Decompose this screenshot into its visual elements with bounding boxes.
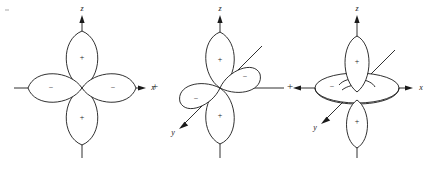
diagram-d-x2-y2: + − + − z x — [0, 0, 160, 172]
axis-label-z: z — [217, 4, 222, 13]
axis-x-negative-arrowhead — [293, 85, 301, 90]
sign-lobe-bottom: + — [355, 117, 360, 126]
diagram-d-yz: + − − + z y — [150, 0, 290, 172]
axis-label-y: y — [170, 128, 175, 137]
axis-label-x: x — [418, 83, 423, 92]
sign-lobe-right: − — [111, 83, 116, 92]
axis-label-y: y — [312, 123, 317, 132]
sign-lobe-top: + — [355, 57, 360, 66]
axis-label-z: z — [79, 4, 84, 13]
diagram-d-z2: + + − z x y — [285, 0, 429, 172]
sign-lobe-lower-left: − — [194, 94, 199, 103]
axis-z-arrowhead — [79, 15, 84, 23]
axis-y-arrowhead — [179, 122, 188, 129]
sign-lobe-top: + — [80, 53, 85, 62]
axis-x-arrowhead — [138, 85, 146, 90]
sign-lobe-left: − — [49, 83, 54, 92]
axis-label-z: z — [354, 4, 359, 13]
axis-y-arrowhead — [321, 117, 330, 124]
axis-z-arrowhead — [217, 15, 222, 23]
orbital-figure: + − + − z x + — [0, 0, 429, 172]
sign-lobe-bottom: + — [80, 113, 85, 122]
lobes-group-1 — [28, 31, 136, 145]
sign-lobe-upper-right: − — [243, 72, 248, 81]
lobes-group-2 — [180, 32, 261, 144]
sign-lobe-top: + — [218, 55, 223, 64]
sign-lobe-bottom: + — [218, 111, 223, 120]
sign-torus: − — [330, 82, 335, 91]
axis-z-arrowhead — [354, 15, 359, 23]
axis-x-arrowhead — [405, 85, 413, 90]
